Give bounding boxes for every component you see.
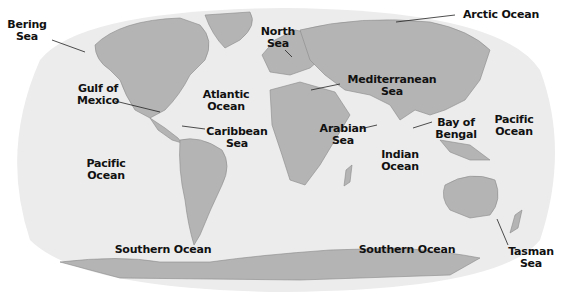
label-pacific-ocean-west: Pacific Ocean	[78, 158, 134, 182]
label-pacific-ocean-east: Pacific Ocean	[487, 114, 541, 138]
label-mediterranean-sea: Mediterranean Sea	[342, 74, 442, 98]
label-north-sea: North Sea	[258, 26, 298, 50]
label-tasman-sea: Tasman Sea	[503, 246, 559, 270]
label-arctic-ocean: Arctic Ocean	[456, 9, 546, 21]
label-southern-ocean-west: Southern Ocean	[108, 244, 218, 256]
label-indian-ocean: Indian Ocean	[373, 149, 427, 173]
label-atlantic-ocean: Atlantic Ocean	[196, 89, 256, 113]
label-arabian-sea: Arabian Sea	[315, 123, 371, 147]
label-caribbean-sea: Caribbean Sea	[202, 126, 272, 150]
label-bering-sea: Bering Sea	[2, 19, 52, 43]
label-southern-ocean-east: Southern Ocean	[352, 244, 462, 256]
label-gulf-of-mexico: Gulf of Mexico	[70, 83, 126, 107]
label-bay-of-bengal: Bay of Bengal	[432, 117, 480, 141]
